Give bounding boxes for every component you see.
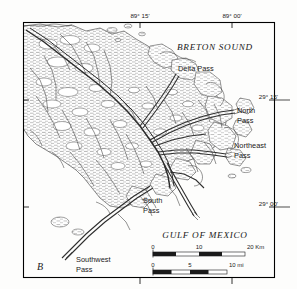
lon-89-15-label: 89° 15' — [130, 12, 149, 19]
northeast-pass-label-line1: Northeast — [234, 141, 266, 150]
south-pass-label-line2: Pass — [143, 206, 160, 215]
delta-map-canvas: 01020 Km0510 mi BRETON SOUNDGULF OF MEXI… — [0, 0, 297, 289]
panel-label-b: B — [37, 261, 43, 272]
scale-mi-segment-1 — [153, 270, 172, 274]
scale-mi-tick-3: 10 mi — [229, 262, 244, 268]
scale-km-segment-3 — [199, 252, 222, 256]
map-figure: 01020 Km0510 mi BRETON SOUNDGULF OF MEXI… — [0, 0, 297, 289]
southwest-pass-label-line1: Southwest — [76, 255, 111, 264]
scale-km-segment-1 — [153, 252, 176, 256]
scale-km-tick-3: 20 Km — [247, 244, 264, 250]
gulf-of-mexico-label: GULF OF MEXICO — [162, 230, 247, 240]
lat-29-00-label: 29° 00' — [259, 200, 278, 207]
delta-pass-label-line1: Delta Pass — [178, 64, 214, 73]
southwest-pass-label-line2: Pass — [76, 265, 93, 274]
northeast-pass-label-line2: Pass — [234, 151, 251, 160]
scale-km-tick-2: 10 — [196, 244, 203, 250]
north-pass-label-line1: North — [237, 106, 255, 115]
north-pass-label-line2: Pass — [237, 116, 254, 125]
breton-sound-label: BRETON SOUND — [177, 42, 253, 52]
south-pass-label-line1: South — [143, 196, 162, 205]
lat-29-15-label: 29° 15' — [259, 93, 278, 100]
lon-89-00-label: 89° 00' — [222, 12, 241, 19]
scale-mi-segment-3 — [190, 270, 209, 274]
